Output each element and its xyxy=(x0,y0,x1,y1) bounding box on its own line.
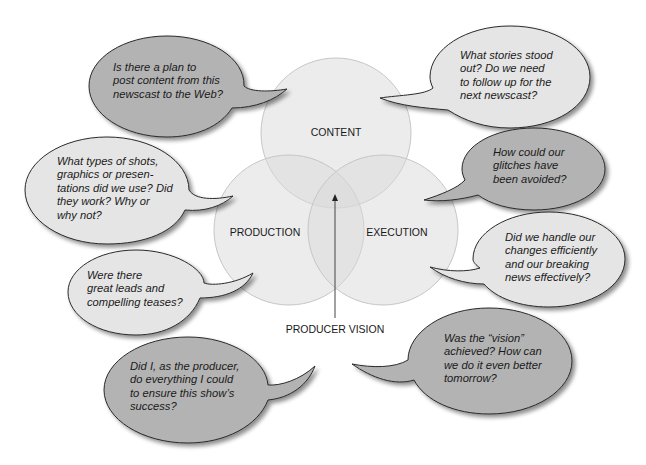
bubble-text-shots-graphics: What types of shots, graphics or presen-… xyxy=(57,155,173,222)
bubble-line: Did we handle our xyxy=(505,231,597,244)
bubble-line: graphics or presen- xyxy=(57,168,173,181)
bubble-text-vision-achieved: Was the “vision” achieved? How can we do… xyxy=(444,332,542,386)
content-label: CONTENT xyxy=(311,126,362,138)
production-label: PRODUCTION xyxy=(230,226,301,238)
bubble-text-leads-teases: Were there great leads and compelling te… xyxy=(87,269,183,309)
bubble-line: to ensure this show’s xyxy=(130,387,239,400)
bubble-line: compelling teases? xyxy=(87,296,183,309)
bubble-line: out? Do we need xyxy=(460,62,553,75)
bubble-line: What stories stood xyxy=(460,49,553,62)
bubble-text-glitches: How could our glitches have been avoided… xyxy=(493,146,566,186)
bubble-line: Were there xyxy=(87,269,183,282)
bubble-line: How could our xyxy=(493,146,566,159)
producer-vision-diagram: CONTENT PRODUCTION EXECUTION PRODUCER VI… xyxy=(0,0,646,465)
bubble-line: great leads and xyxy=(87,282,183,295)
bubble-line: achieved? How can xyxy=(444,345,542,358)
bubble-line: post content from this xyxy=(113,74,223,87)
bubble-line: Was the “vision” xyxy=(444,332,542,345)
bubble-line: Did I, as the producer, xyxy=(130,360,239,373)
bubble-line: What types of shots, xyxy=(57,155,173,168)
bubble-line: changes efficiently xyxy=(505,244,597,257)
bubble-line: and our breaking xyxy=(505,258,597,271)
bubble-line: Is there a plan to xyxy=(113,61,223,74)
execution-label: EXECUTION xyxy=(366,226,427,238)
bubble-line: they work? Why or xyxy=(57,195,173,208)
bubble-line: tomorrow? xyxy=(444,372,542,385)
bubble-text-producer-effort: Did I, as the producer, do everything I … xyxy=(130,360,239,414)
bubble-line: news effectively? xyxy=(505,271,597,284)
bubble-line: been avoided? xyxy=(493,173,566,186)
producer-vision-label: PRODUCER VISION xyxy=(286,323,385,335)
bubble-line: tations did we use? Did xyxy=(57,182,173,195)
bubble-line: success? xyxy=(130,400,239,413)
bubble-text-changes-breaking-news: Did we handle our changes efficiently an… xyxy=(505,231,597,285)
bubble-line: glitches have xyxy=(493,159,566,172)
bubble-line: next newscast? xyxy=(460,89,553,102)
bubble-line: to follow up for the xyxy=(460,76,553,89)
bubble-line: do everything I could xyxy=(130,373,239,386)
bubble-line: we do it even better xyxy=(444,359,542,372)
bubble-line: why not? xyxy=(57,209,173,222)
bubble-text-stories-stood-out: What stories stood out? Do we need to fo… xyxy=(460,49,553,103)
bubble-line: newscast to the Web? xyxy=(113,88,223,101)
bubble-text-web-plan: Is there a plan to post content from thi… xyxy=(113,61,223,101)
